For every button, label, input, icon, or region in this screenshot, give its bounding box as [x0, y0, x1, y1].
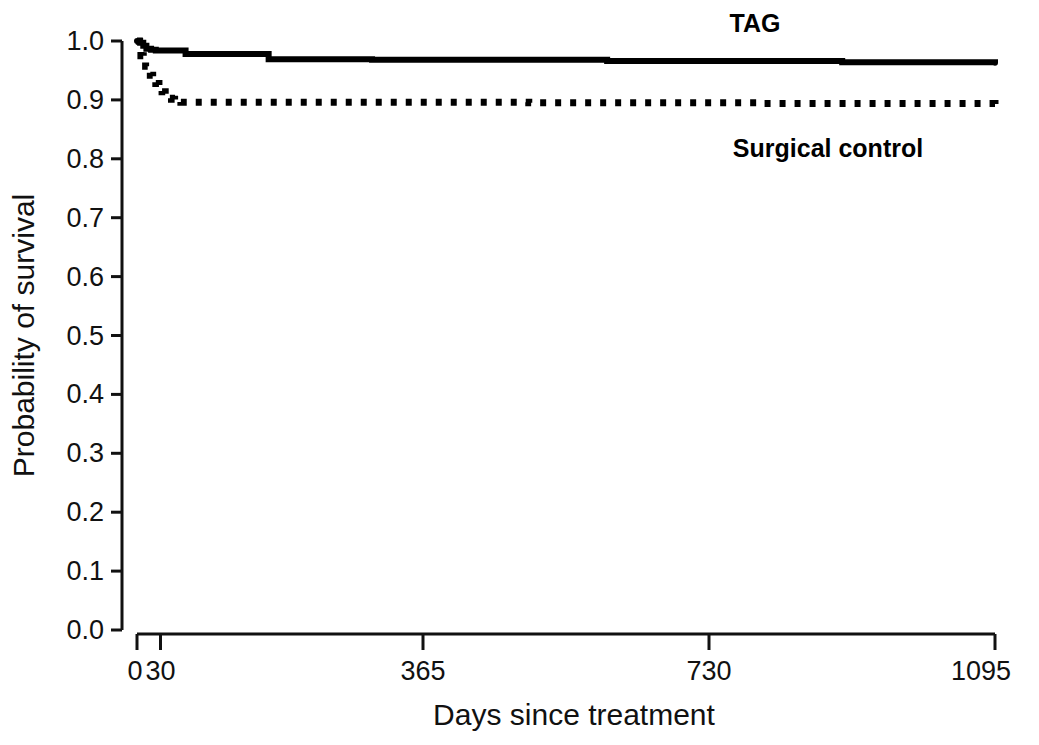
y-axis-tick-label: 0.0: [66, 615, 104, 645]
x-axis-tick-label: 365: [400, 656, 445, 686]
y-axis-tick-label: 0.5: [66, 321, 104, 351]
series-label-tag: TAG: [730, 9, 781, 37]
series-label-surgical-control: Surgical control: [733, 134, 923, 162]
survival-chart: 0.00.10.20.30.40.50.60.70.80.91.0Probabi…: [0, 0, 1039, 745]
x-axis-tick-label: 0: [127, 656, 142, 686]
x-axis-tick-label: 730: [686, 656, 731, 686]
y-axis-tick-label: 0.7: [66, 203, 104, 233]
y-axis-tick-label: 0.1: [66, 556, 104, 586]
y-axis-tick-label: 0.4: [66, 379, 104, 409]
series-line-tag: [137, 41, 995, 63]
y-axis-tick-label: 0.6: [66, 262, 104, 292]
chart-figure: 0.00.10.20.30.40.50.60.70.80.91.0Probabi…: [0, 0, 1039, 745]
x-axis-tick-label: 30: [145, 656, 175, 686]
y-axis-tick-label: 0.3: [66, 438, 104, 468]
x-axis-title: Days since treatment: [433, 698, 715, 731]
y-axis-title: Probability of survival: [7, 194, 40, 477]
x-axis-tick-label: 1095: [951, 656, 1011, 686]
series-line-surgical-control: [137, 41, 995, 104]
y-axis-tick-label: 0.2: [66, 497, 104, 527]
y-axis-tick-label: 0.8: [66, 144, 104, 174]
y-axis-tick-label: 0.9: [66, 85, 104, 115]
y-axis-tick-label: 1.0: [66, 26, 104, 56]
